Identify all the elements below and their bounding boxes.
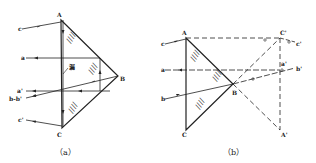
vertex-label-B: B — [232, 89, 237, 96]
ray-label-c: c — [18, 25, 22, 32]
vertex-label-C: C — [182, 131, 187, 138]
surface-label: 漏 — [69, 63, 75, 71]
caption-a: （a） — [55, 148, 76, 157]
ray-label-a: a — [161, 66, 165, 73]
ray-label-c-prime: c' — [296, 40, 302, 47]
vertex-label-A-prime: A' — [280, 131, 288, 138]
prism-diagram: 漏 //// //// //// A B C c a a' b-b' c' （a… — [0, 0, 316, 163]
vertex-label-C: C — [57, 131, 62, 138]
ray-label-b-prime: b' — [296, 65, 302, 72]
figure-b: //// //// //// A B C C' A' c a b c' a' b… — [161, 29, 302, 157]
vertex-label-C-prime: C' — [280, 29, 287, 36]
ray-label-a-prime: a' — [17, 87, 23, 94]
figure-a: 漏 //// //// //// A B C c a a' b-b' c' （a… — [9, 11, 125, 157]
ray-label-c-prime: c' — [18, 116, 24, 123]
ray-label-c: c — [161, 40, 165, 47]
ray-label-b-b-prime: b-b' — [9, 95, 22, 102]
vertex-label-B: B — [120, 75, 125, 82]
hatch-mark: //// — [210, 69, 223, 83]
ray-label-a-prime: a' — [281, 60, 287, 67]
hatch-mark: //// — [193, 97, 206, 111]
vertex-label-A: A — [181, 29, 187, 36]
ray-label-b: b — [161, 95, 165, 102]
caption-b: （b） — [223, 148, 244, 157]
ray-label-a: a — [21, 54, 25, 61]
hatch-mark: //// — [86, 62, 99, 76]
hatch-mark: //// — [64, 31, 77, 45]
vertex-label-A: A — [56, 11, 62, 18]
